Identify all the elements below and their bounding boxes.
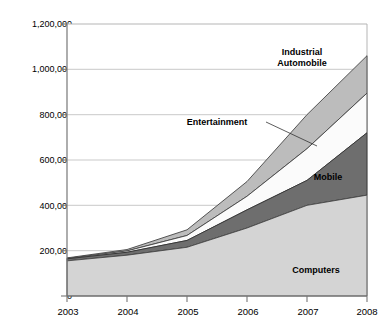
series-label-industrial-line1: Industrial (282, 47, 323, 57)
y-axis-ticks (61, 24, 67, 296)
series-label-computers: Computers (281, 265, 351, 276)
x-axis-ticks (67, 296, 367, 302)
series-label-entertainment: Entertainment (171, 117, 263, 128)
series-label-industrial-automobile: Industrial Automobile (252, 47, 352, 69)
series-label-industrial-line2: Automobile (277, 58, 327, 68)
series-label-mobile: Mobile (302, 172, 354, 183)
stacked-area-chart: 1,200,000 1,000,000 800,000 600,000 400,… (0, 0, 386, 331)
